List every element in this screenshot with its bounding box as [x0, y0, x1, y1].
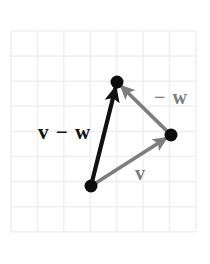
- vector-diagram-figure: v − w − w v: [0, 0, 210, 264]
- origin-point: [85, 180, 98, 193]
- v-minus-w-label: v − w: [38, 122, 91, 143]
- v-minus-w-arrow: [91, 88, 115, 184]
- head-v-minus-w-point: [111, 76, 124, 89]
- v-arrow: [93, 138, 166, 185]
- minus-w-label: − w: [154, 87, 188, 107]
- v-label: v: [135, 163, 145, 183]
- diagram-canvas: [0, 0, 210, 264]
- head-v-point: [165, 129, 178, 142]
